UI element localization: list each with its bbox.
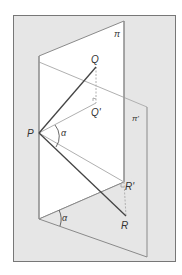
label-alpha-top: α bbox=[61, 128, 67, 138]
label-Q-prime: Q' bbox=[91, 107, 102, 118]
label-R-prime: R' bbox=[125, 181, 135, 192]
diagram-canvas: π π' P Q Q' R' R α α bbox=[0, 0, 182, 275]
label-alpha-bottom: α bbox=[62, 213, 68, 223]
label-Q: Q bbox=[91, 54, 99, 65]
label-P: P bbox=[27, 128, 34, 139]
label-pi: π bbox=[114, 29, 121, 39]
label-R: R bbox=[121, 220, 128, 231]
label-pi-prime: π' bbox=[132, 114, 139, 123]
